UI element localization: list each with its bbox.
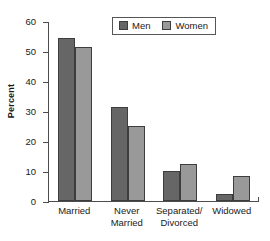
y-axis-tick-label: 50 xyxy=(25,47,36,57)
x-axis-line xyxy=(48,201,259,202)
y-axis-tick-label: 0 xyxy=(31,197,36,207)
y-axis-tick: 10 xyxy=(43,172,48,173)
y-axis-tick: 60 xyxy=(43,22,48,23)
y-axis-tick-label: 10 xyxy=(25,167,36,177)
bar-women-nevermarried xyxy=(128,126,145,201)
y-axis-title-text: Percent xyxy=(6,84,16,118)
y-axis-tick: 50 xyxy=(43,52,48,53)
y-axis-tick-label: 40 xyxy=(25,77,36,87)
y-axis-tick-label: 30 xyxy=(25,107,36,117)
legend-label-men: Men xyxy=(132,21,150,31)
bar-men-married xyxy=(58,38,75,202)
legend-swatch-women xyxy=(162,21,171,30)
y-axis-title: Percent xyxy=(2,0,20,202)
bar-men-nevermarried xyxy=(111,107,128,202)
y-axis-tick: 40 xyxy=(43,82,48,83)
legend-label-women: Women xyxy=(175,21,208,31)
bar-women-married xyxy=(75,47,92,202)
bar-women-widowed xyxy=(233,176,250,202)
y-axis-tick: 0 xyxy=(43,202,48,203)
y-axis-tick-label: 60 xyxy=(25,17,36,27)
y-axis-tick-label: 20 xyxy=(25,137,36,147)
x-axis-tick-labels: MarriedNever MarriedSeparated/ DivorcedW… xyxy=(48,205,259,239)
legend-entry-men: Men xyxy=(119,21,150,31)
plot-area: 0102030405060 xyxy=(48,22,259,202)
y-axis-tick: 30 xyxy=(43,112,48,113)
bar-chart: Percent 0102030405060 MarriedNever Marri… xyxy=(0,0,270,241)
bar-women-separateddivorced xyxy=(180,164,197,202)
x-axis-tick-label: Widowed xyxy=(198,205,267,217)
y-axis-tick: 20 xyxy=(43,142,48,143)
bar-series-group xyxy=(49,21,259,201)
bar-men-widowed xyxy=(216,194,233,202)
bar-men-separateddivorced xyxy=(163,171,180,201)
legend-swatch-men xyxy=(119,21,128,30)
legend-entry-women: Women xyxy=(162,21,208,31)
chart-legend: Men Women xyxy=(112,17,216,35)
